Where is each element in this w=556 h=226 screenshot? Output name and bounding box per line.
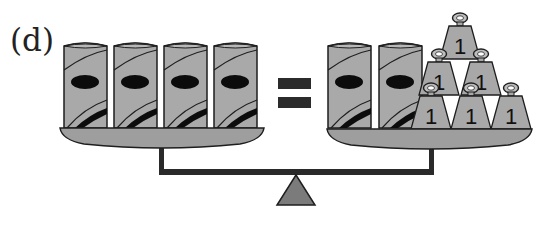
can-icon (214, 43, 257, 128)
left-pan (60, 128, 264, 148)
can-icon (328, 43, 371, 128)
left-cans (64, 43, 257, 128)
balance-scale-drawing: 1 1 1 1 1 1 (0, 0, 556, 226)
can-icon (114, 43, 157, 128)
svg-text:1: 1 (425, 104, 437, 129)
fulcrum-triangle (277, 175, 315, 205)
equals-sign (278, 78, 311, 108)
right-cans (328, 43, 422, 128)
svg-text:1: 1 (454, 34, 466, 59)
unit-weights: 1 1 1 1 1 1 (411, 13, 531, 129)
scale-beam (159, 145, 434, 175)
svg-text:1: 1 (505, 104, 517, 129)
can-icon (164, 43, 207, 128)
can-icon (64, 43, 107, 128)
svg-text:1: 1 (465, 104, 477, 129)
right-pan (327, 129, 532, 149)
balance-scale-figure: (d) (0, 0, 556, 226)
